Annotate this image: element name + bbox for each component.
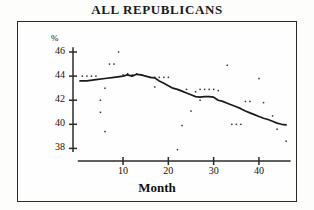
scatter-point [118, 51, 120, 53]
scatter-point [104, 131, 106, 133]
x-tick-label: 30 [202, 165, 226, 176]
scatter-point [100, 100, 102, 102]
scatter-point [100, 112, 102, 114]
scatter-point [154, 86, 156, 88]
scatter-point [227, 65, 229, 67]
scatter-point [236, 124, 238, 126]
x-tick-label: 10 [111, 165, 135, 176]
scatter-point [263, 102, 265, 104]
chart-container: ALL REPUBLICANS % Month 3840424446 10203… [0, 0, 314, 210]
y-tick-label: 46 [45, 45, 65, 56]
scatter-point [181, 125, 183, 127]
scatter-point [231, 124, 233, 126]
y-tick-label: 42 [45, 93, 65, 104]
x-tick-label: 40 [247, 165, 271, 176]
scatter-point [204, 89, 206, 91]
scatter-point [240, 124, 242, 126]
scatter-points [82, 51, 287, 150]
scatter-point [249, 101, 251, 103]
scatter-point [159, 77, 161, 79]
scatter-point [104, 87, 106, 89]
x-axis-title: Month [17, 180, 297, 196]
y-tick-label: 40 [45, 117, 65, 128]
scatter-point [217, 90, 219, 92]
scatter-point [190, 110, 192, 112]
scatter-point [86, 75, 88, 77]
scatter-point [213, 89, 215, 91]
scatter-point [195, 91, 197, 93]
scatter-point [91, 75, 93, 77]
scatter-point [163, 77, 165, 79]
scatter-point [199, 100, 201, 102]
x-axis [78, 157, 291, 165]
chart-plot-area [0, 0, 314, 210]
scatter-point [276, 128, 278, 130]
scatter-point [168, 77, 170, 79]
trend-line-path [80, 74, 286, 125]
scatter-point [177, 149, 179, 151]
scatter-point [199, 89, 201, 91]
scatter-point [113, 63, 115, 65]
scatter-point [208, 89, 210, 91]
scatter-point [109, 63, 111, 65]
scatter-point [285, 140, 287, 142]
y-tick-label: 38 [45, 141, 65, 152]
y-tick-label: 44 [45, 69, 65, 80]
trend-line [80, 74, 286, 125]
y-axis [69, 47, 77, 152]
y-axis-unit-label: % [51, 33, 59, 43]
scatter-point [258, 78, 260, 80]
scatter-point [245, 101, 247, 103]
scatter-point [272, 115, 274, 117]
x-tick-label: 20 [156, 165, 180, 176]
scatter-point [82, 75, 84, 77]
scatter-point [95, 75, 97, 77]
scatter-point [186, 89, 188, 91]
